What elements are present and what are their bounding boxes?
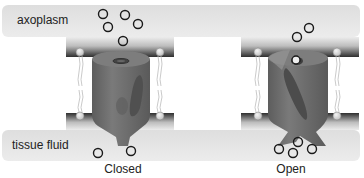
caption-closed: Closed <box>95 162 151 176</box>
axoplasm-label: axoplasm <box>17 13 68 27</box>
ion-in-pore <box>292 56 300 64</box>
caption-open: Open <box>266 162 316 176</box>
tissue-fluid-label: tissue fluid <box>12 138 69 152</box>
lipid-left-closed <box>78 56 83 112</box>
lipid-left-open <box>255 56 260 112</box>
lipid-right-closed <box>157 56 162 112</box>
lipid-right-open <box>335 56 340 112</box>
